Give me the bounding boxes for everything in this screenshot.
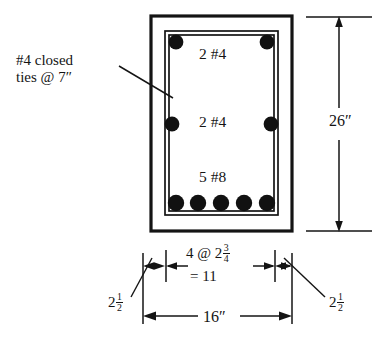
cover-left-denominator: 2 <box>116 302 123 313</box>
dim-cover-left-arrow-right <box>154 262 165 270</box>
cover-left-numerator: 1 <box>116 292 123 302</box>
cover-right-leader-line <box>284 258 325 297</box>
bar-spacing-denominator: 4 <box>223 253 230 264</box>
bar-spacing-total-label: = 11 <box>190 268 217 285</box>
rebar-top-left <box>169 35 184 50</box>
bar-spacing-fraction: 34 <box>223 243 230 264</box>
tie-callout-line1: #4 closed <box>16 52 73 69</box>
top-bars-label: 2 #4 <box>199 45 226 62</box>
dim-spacing-arrow-left <box>166 262 177 270</box>
cover-left-whole: 2 <box>108 294 116 310</box>
rebar-bottom-5 <box>259 195 275 211</box>
cover-right-denominator: 2 <box>337 302 344 313</box>
cover-left-label: 212 <box>108 292 123 313</box>
cover-right-fraction: 12 <box>337 292 344 313</box>
width-dimension-label: 16″ <box>203 308 226 326</box>
cover-right-whole: 2 <box>329 294 337 310</box>
rebar-bottom-2 <box>190 195 206 211</box>
bar-spacing-prefix: 4 @ 2 <box>186 245 222 261</box>
cover-left-leader-line <box>131 258 152 297</box>
rebar-middle-left <box>165 117 180 132</box>
middle-bars-label: 2 #4 <box>199 113 226 130</box>
rebar-middle-right <box>264 117 279 132</box>
rebar-top-right <box>260 35 275 50</box>
dim-width-arrow-left <box>143 312 156 321</box>
bar-spacing-label: 4 @ 234 <box>186 243 230 264</box>
cover-right-label: 212 <box>329 292 344 313</box>
beam-cross-section-figure: #4 closed ties @ 7″ 2 #4 2 #4 5 #8 26″ 1… <box>0 0 376 346</box>
tie-callout-label: #4 closed ties @ 7″ <box>16 52 73 86</box>
tie-callout-line2: ties @ 7″ <box>16 69 73 86</box>
dim-width-arrow-right <box>279 312 292 321</box>
rebar-bottom-3 <box>213 195 229 211</box>
dim-spacing-arrow-right <box>264 262 275 270</box>
rebar-bottom-1 <box>168 195 184 211</box>
bar-spacing-numerator: 3 <box>223 243 230 253</box>
rebar-bottom-4 <box>236 195 252 211</box>
height-dimension-label: 26″ <box>329 112 352 130</box>
bottom-bars-label: 5 #8 <box>199 168 226 185</box>
cover-right-numerator: 1 <box>337 292 344 302</box>
cover-left-fraction: 12 <box>116 292 123 313</box>
